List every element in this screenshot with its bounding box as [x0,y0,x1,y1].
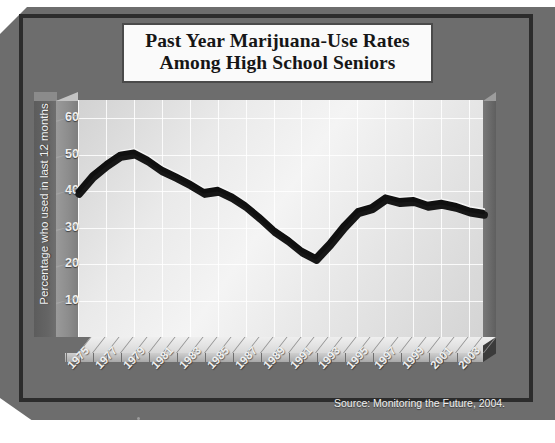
chart-3d-plot: 605040302010 Percentage who used in last… [27,92,505,367]
source-note: Source: Monitoring the Future, 2004. [334,397,505,409]
chart-title-line-2: Among High School Seniors [128,52,427,74]
y-axis-tick-label: 30 [55,220,79,234]
page-speck [137,417,140,420]
page-top-margin [0,0,555,7]
chart-title-line-1: Past Year Marijuana-Use Rates [128,30,427,52]
data-line-shadow [79,155,484,260]
data-line [78,100,496,337]
page-bottom-margin [0,420,555,443]
y-axis-title: Percentage who used in last 12 months [38,85,50,323]
x-axis-tick-labels: 1975197719791981198319851987198919911993… [27,357,505,401]
y-axis-ticks: 605040302010 [56,100,78,337]
y-axis-tick-label: 40 [55,183,79,197]
y-axis-tick-label: 20 [55,256,79,270]
data-line-main [78,152,483,257]
y-axis-tick-label: 60 [55,110,79,124]
chart-title-box: Past Year Marijuana-Use Rates Among High… [122,23,433,83]
y-axis-tick-label: 10 [55,293,79,307]
y-axis-tick-label: 50 [55,147,79,161]
figure-page: Past Year Marijuana-Use Rates Among High… [0,0,555,443]
